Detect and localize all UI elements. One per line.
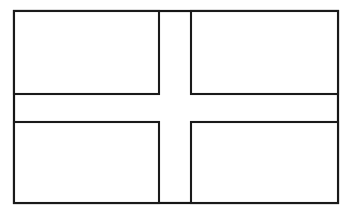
flag-drawing xyxy=(0,0,358,211)
quadrant-upper-fly xyxy=(191,11,338,94)
figure-canvas xyxy=(0,0,358,211)
quadrant-lower-hoist xyxy=(14,122,159,203)
quadrant-lower-fly xyxy=(191,122,338,203)
quadrant-upper-hoist xyxy=(14,11,159,94)
